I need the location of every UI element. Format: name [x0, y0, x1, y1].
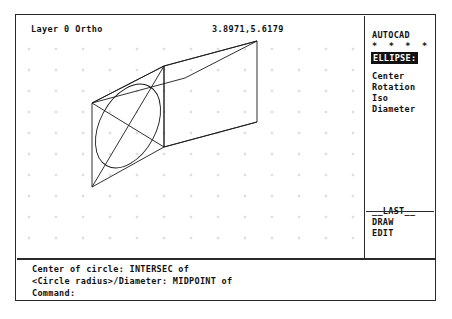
- screen-menu-item-rotation[interactable]: Rotation: [372, 82, 415, 92]
- command-area-divider: [17, 258, 436, 260]
- graphics-drawing-area[interactable]: [17, 37, 364, 258]
- isometric-box-drawing: [17, 37, 364, 258]
- status-coordinate-readout[interactable]: 3.8971,5.6179: [212, 24, 284, 34]
- command-history-line-1: Center of circle: INTERSEC of: [32, 264, 189, 274]
- screen-menu-item-iso[interactable]: Iso: [372, 93, 388, 103]
- screen-menu-item-edit[interactable]: EDIT: [372, 228, 394, 238]
- screen-menu-item-center[interactable]: Center: [372, 71, 405, 81]
- command-history-line-2: <Circle radius>/Diameter: MIDPOINT of: [32, 276, 232, 286]
- screen-menu-item-diameter[interactable]: Diameter: [372, 104, 415, 114]
- screen-menu-item-draw[interactable]: DRAW: [372, 217, 394, 227]
- command-prompt-area[interactable]: Center of circle: INTERSEC of <Circle ra…: [17, 261, 436, 301]
- autocad-screen: Layer 0 Ortho 3.8971,5.6179 AUTOCAD * * …: [0, 0, 452, 319]
- screen-menu-sidebar[interactable]: AUTOCAD * * * * ELLIPSE: Center Rotation…: [364, 16, 436, 258]
- screen-menu-osnap-stars[interactable]: * * * *: [372, 41, 430, 51]
- screen-menu-active-command[interactable]: ELLIPSE:: [371, 52, 418, 64]
- command-prompt-line[interactable]: Command:: [32, 288, 75, 298]
- screen-menu-title[interactable]: AUTOCAD: [372, 30, 410, 40]
- screen-frame: Layer 0 Ortho 3.8971,5.6179 AUTOCAD * * …: [15, 14, 436, 301]
- screen-menu-divider: [366, 211, 434, 212]
- status-layer-indicator[interactable]: Layer 0 Ortho: [31, 24, 103, 34]
